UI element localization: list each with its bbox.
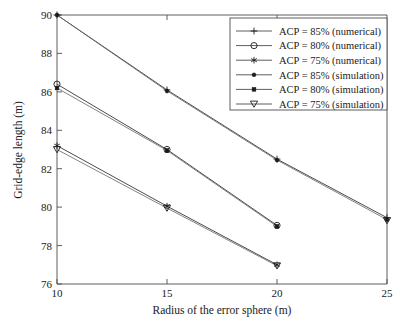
legend-label-5: ACP = 75% (simulation) <box>279 99 384 111</box>
x-tick-label-25: 25 <box>382 287 394 299</box>
y-tick-label-84: 84 <box>41 124 53 136</box>
marker-square-filled <box>252 88 256 92</box>
legend: ACP = 85% (numerical)ACP = 80% (numerica… <box>230 18 387 111</box>
legend-label-4: ACP = 80% (simulation) <box>279 84 384 96</box>
y-tick-label-90: 90 <box>41 9 53 21</box>
x-tick-label-10: 10 <box>52 287 64 299</box>
chart-figure: 76 78 80 82 84 86 88 90 10 15 20 25 <box>0 0 408 333</box>
x-tick-label-15: 15 <box>162 287 174 299</box>
marker-square-filled <box>55 86 59 90</box>
marker-asterisk <box>54 142 60 149</box>
y-tick-label-80: 80 <box>41 201 53 213</box>
y-tick-label-82: 82 <box>41 163 52 175</box>
legend-label-3: ACP = 85% (simulation) <box>279 70 384 82</box>
series-markers-5 <box>53 147 390 269</box>
marker-dot-filled <box>275 158 279 162</box>
legend-label-1: ACP = 80% (numerical) <box>279 40 382 52</box>
y-tick-label-86: 86 <box>41 86 53 98</box>
chart-canvas: 76 78 80 82 84 86 88 90 10 15 20 25 <box>0 0 408 333</box>
y-axis-title: Grid-edge length (m) <box>12 101 25 199</box>
legend-label-0: ACP = 85% (numerical) <box>279 26 382 38</box>
x-tick-label-20: 20 <box>272 287 284 299</box>
legend-label-2: ACP = 75% (numerical) <box>279 55 382 67</box>
y-tick-label-88: 88 <box>41 47 53 59</box>
marker-dot-filled <box>165 89 169 93</box>
marker-square-filled <box>275 225 279 229</box>
marker-dot-filled <box>55 13 59 17</box>
marker-square-filled <box>165 149 169 153</box>
marker-dot-filled <box>252 73 256 77</box>
x-axis-title: Radius of the error sphere (m) <box>153 304 292 317</box>
y-tick-label-78: 78 <box>41 240 53 252</box>
